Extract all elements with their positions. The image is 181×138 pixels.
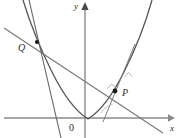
y-axis-label: y: [73, 1, 78, 11]
origin-label: 0: [69, 122, 74, 133]
figure-canvas: x y 0 Q P: [0, 0, 181, 138]
point-Q-label: Q: [18, 42, 26, 53]
point-P-label: P: [121, 87, 128, 98]
x-axis-label: x: [169, 123, 174, 133]
point-P-dot: [113, 89, 118, 94]
point-Q-dot: [35, 40, 39, 44]
geometry-figure: x y 0 Q P: [0, 0, 181, 138]
